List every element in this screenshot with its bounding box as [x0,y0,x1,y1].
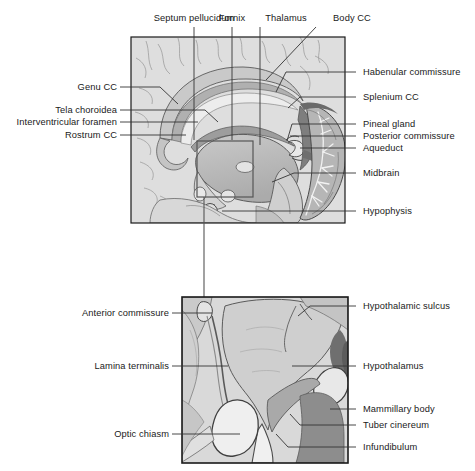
label-anterior-commissure: Anterior commissure [82,308,169,318]
label-pineal-gland: Pineal gland [363,119,415,129]
upper-panel-artwork [131,37,346,223]
label-posterior-commissure: Posterior commissure [363,131,455,141]
label-optic-chiasm: Optic chiasm [114,429,169,439]
label-fornix: Fornix [219,13,245,23]
label-tuber-cinereum: Tuber cinereum [363,420,429,430]
label-aqueduct: Aqueduct [363,143,403,153]
label-lamina-terminalis: Lamina terminalis [95,361,169,371]
label-tela-choroidea: Tela choroidea [55,105,117,115]
label-rostrum-cc: Rostrum CC [65,130,117,140]
label-mammillary-body: Mammillary body [363,404,435,414]
label-splenium-cc: Splenium CC [363,92,419,102]
label-thalamus: Thalamus [265,13,307,23]
label-genu-cc: Genu CC [78,82,117,92]
label-hypothalamus: Hypothalamus [363,361,424,371]
label-body-cc: Body CC [333,13,371,23]
label-midbrain: Midbrain [363,168,399,178]
label-habenular-commissure: Habenular commissure [363,67,460,77]
label-hypophysis: Hypophysis [363,206,412,216]
lower-panel-artwork [182,297,348,463]
label-interventricular-foramen: Interventricular foramen [17,117,117,127]
anatomy-figure: Septum pellucidum Fornix Thalamus Body C… [0,0,475,471]
label-hypothalamic-sulcus: Hypothalamic sulcus [363,301,450,311]
label-infundibulum: Infundibulum [363,442,417,452]
